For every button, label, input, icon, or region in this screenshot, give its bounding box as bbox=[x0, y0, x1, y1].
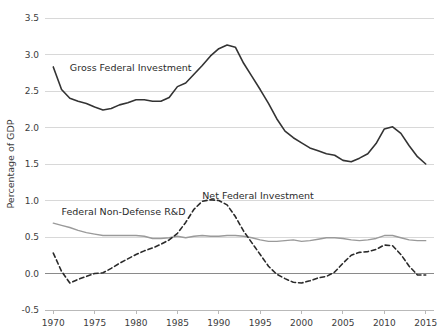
y-tick-label: 1.0 bbox=[25, 196, 40, 206]
y-tick-label: 3.0 bbox=[25, 50, 40, 60]
y-tick-label: 3.5 bbox=[25, 13, 39, 23]
x-tick-label: 2005 bbox=[332, 318, 355, 328]
series-line-federal-non-defense-rnd bbox=[53, 223, 425, 241]
x-tick-label: 1980 bbox=[125, 318, 148, 328]
x-tick-label: 2000 bbox=[290, 318, 313, 328]
y-tick-label: 0.0 bbox=[25, 269, 40, 279]
y-tick-label: 2.0 bbox=[25, 123, 40, 133]
x-tick-label: 2010 bbox=[373, 318, 396, 328]
chart-container: -0.50.00.51.01.52.02.53.03.5197019751980… bbox=[0, 0, 443, 336]
y-tick-label: -0.5 bbox=[21, 305, 39, 315]
series-label-federal-non-defense-r-d: Federal Non-Defense R&D bbox=[62, 206, 186, 217]
x-tick-label: 1975 bbox=[83, 318, 106, 328]
x-tick-label: 1970 bbox=[42, 318, 65, 328]
y-tick-label: 0.5 bbox=[25, 232, 39, 242]
x-tick-label: 2015 bbox=[414, 318, 437, 328]
y-axis-title: Percentage of GDP bbox=[5, 119, 16, 208]
x-tick-label: 1990 bbox=[207, 318, 230, 328]
series-label-gross-federal-investment: Gross Federal Investment bbox=[70, 62, 192, 73]
line-chart: -0.50.00.51.01.52.02.53.03.5197019751980… bbox=[0, 0, 443, 336]
y-tick-label: 2.5 bbox=[25, 86, 39, 96]
x-tick-label: 1985 bbox=[166, 318, 189, 328]
y-tick-label: 1.5 bbox=[25, 159, 39, 169]
x-tick-label: 1995 bbox=[249, 318, 272, 328]
series-label-net-federal-investment: Net Federal Investment bbox=[202, 190, 314, 201]
